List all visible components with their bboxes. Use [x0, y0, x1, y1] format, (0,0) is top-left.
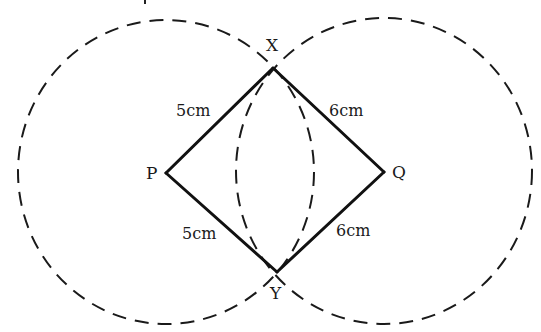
point-label-y: Y — [270, 285, 281, 302]
point-label-x: X — [266, 37, 278, 54]
length-label-px: 5cm — [176, 103, 210, 119]
segment-xq — [273, 68, 384, 172]
length-label-xq: 6cm — [329, 103, 363, 119]
length-label-py: 5cm — [182, 226, 216, 242]
diagram-canvas: X P Q Y 5cm 6cm 5cm 6cm — [0, 0, 541, 332]
length-label-yq: 6cm — [336, 223, 370, 239]
segment-px — [166, 68, 273, 173]
point-label-q: Q — [392, 164, 406, 181]
point-label-p: P — [146, 165, 157, 182]
segment-py — [166, 173, 277, 272]
